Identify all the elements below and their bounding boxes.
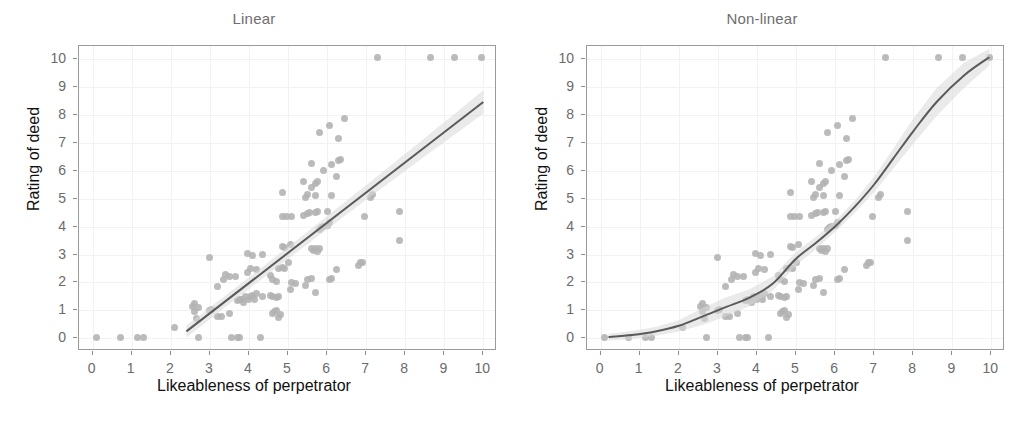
y-axis-tick-mark <box>581 114 585 115</box>
y-axis-tick-mark <box>581 58 585 59</box>
x-axis-tick-mark <box>873 351 874 355</box>
y-axis-title-linear: Rating of deed <box>25 29 43 289</box>
y-axis-tick-mark <box>73 86 77 87</box>
y-axis-tick-mark <box>581 142 585 143</box>
y-axis-tick-mark <box>73 170 77 171</box>
x-axis-tick-label: 5 <box>782 361 808 375</box>
y-axis-tick-mark <box>73 142 77 143</box>
x-axis-tick-label: 9 <box>430 361 456 375</box>
x-axis-tick-label: 4 <box>743 361 769 375</box>
confidence-ribbon <box>609 49 990 341</box>
x-axis-tick-label: 10 <box>469 361 495 375</box>
y-axis-tick-label: 0 <box>540 330 574 344</box>
x-axis-tick-mark <box>287 351 288 355</box>
x-axis-tick-label: 2 <box>157 361 183 375</box>
panel-title-nonlinear: Non-linear <box>508 10 1016 27</box>
y-axis-tick-mark <box>581 254 585 255</box>
x-axis-tick-label: 2 <box>665 361 691 375</box>
figure-canvas: Linear 109876543210 012345678910 Likeabl… <box>0 0 1016 427</box>
y-axis-tick-mark <box>73 337 77 338</box>
y-axis-tick-mark <box>581 281 585 282</box>
x-axis-tick-mark <box>717 351 718 355</box>
y-axis-tick-label: 1 <box>540 302 574 316</box>
x-axis-tick-label: 8 <box>899 361 925 375</box>
smooth-fit-overlay <box>587 46 1004 350</box>
y-axis-tick-mark <box>73 309 77 310</box>
x-axis-tick-label: 9 <box>938 361 964 375</box>
y-axis-tick-mark <box>581 309 585 310</box>
y-axis-tick-mark <box>581 337 585 338</box>
plot-area-nonlinear <box>586 45 1004 350</box>
x-axis-tick-mark <box>326 351 327 355</box>
x-axis-tick-mark <box>131 351 132 355</box>
x-axis-title-nonlinear: Likeableness of perpetrator <box>508 377 1016 395</box>
y-axis-tick-mark <box>581 170 585 171</box>
x-axis-tick-label: 10 <box>977 361 1003 375</box>
x-axis-tick-label: 8 <box>391 361 417 375</box>
x-axis-tick-label: 3 <box>196 361 222 375</box>
x-axis-tick-label: 1 <box>626 361 652 375</box>
x-axis-tick-mark <box>248 351 249 355</box>
x-axis-tick-label: 1 <box>118 361 144 375</box>
y-axis-tick-mark <box>73 226 77 227</box>
y-axis-tick-mark <box>73 254 77 255</box>
y-axis-title-nonlinear: Rating of deed <box>533 29 551 289</box>
x-axis-tick-mark <box>639 351 640 355</box>
x-axis-tick-label: 6 <box>313 361 339 375</box>
x-axis-tick-label: 7 <box>860 361 886 375</box>
y-axis-tick-label: 0 <box>32 330 66 344</box>
x-axis-tick-mark <box>365 351 366 355</box>
x-axis-tick-label: 0 <box>587 361 613 375</box>
x-axis-tick-mark <box>404 351 405 355</box>
linear-fit-overlay <box>79 46 496 350</box>
x-axis-tick-label: 7 <box>352 361 378 375</box>
plot-area-linear <box>78 45 496 350</box>
x-axis-title-linear: Likeableness of perpetrator <box>0 377 508 395</box>
y-axis-tick-mark <box>581 86 585 87</box>
y-axis-tick-mark <box>73 114 77 115</box>
y-axis-tick-label: 1 <box>32 302 66 316</box>
x-axis-tick-mark <box>834 351 835 355</box>
x-axis-tick-mark <box>756 351 757 355</box>
x-axis-tick-mark <box>795 351 796 355</box>
x-axis-tick-mark <box>170 351 171 355</box>
x-axis-tick-mark <box>482 351 483 355</box>
panel-nonlinear: Non-linear 109876543210 012345678910 Lik… <box>508 0 1016 427</box>
x-axis-tick-label: 5 <box>274 361 300 375</box>
y-axis-tick-mark <box>581 198 585 199</box>
y-axis-tick-mark <box>581 226 585 227</box>
y-axis-tick-mark <box>73 281 77 282</box>
x-axis-tick-mark <box>209 351 210 355</box>
x-axis-tick-mark <box>951 351 952 355</box>
confidence-ribbon <box>186 90 483 337</box>
x-axis-tick-mark <box>92 351 93 355</box>
x-axis-tick-label: 3 <box>704 361 730 375</box>
x-axis-tick-mark <box>600 351 601 355</box>
x-axis-tick-mark <box>912 351 913 355</box>
x-axis-tick-mark <box>678 351 679 355</box>
panel-title-linear: Linear <box>0 10 508 27</box>
x-axis-tick-label: 0 <box>79 361 105 375</box>
y-axis-tick-mark <box>73 58 77 59</box>
regression-line <box>186 102 483 331</box>
x-axis-tick-mark <box>443 351 444 355</box>
x-axis-tick-label: 4 <box>235 361 261 375</box>
panel-linear: Linear 109876543210 012345678910 Likeabl… <box>0 0 508 427</box>
x-axis-tick-mark <box>990 351 991 355</box>
x-axis-tick-label: 6 <box>821 361 847 375</box>
y-axis-tick-mark <box>73 198 77 199</box>
